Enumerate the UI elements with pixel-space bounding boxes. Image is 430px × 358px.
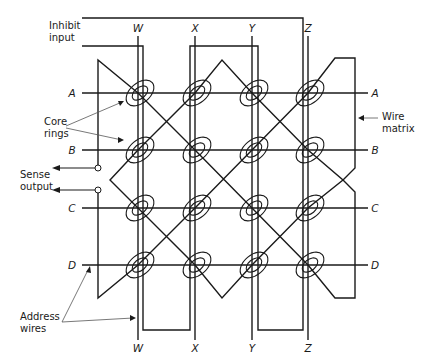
column-labels-bottom: W X Y Z (133, 342, 313, 354)
col-label-w-bottom: W (133, 342, 144, 354)
col-label-x-bottom: X (190, 342, 199, 354)
svg-text:Sense: Sense (20, 169, 50, 180)
row-labels-right: A B C D (370, 87, 379, 271)
sense-terminal-bottom (95, 187, 101, 193)
row-label-c-left: C (68, 202, 76, 214)
sense-terminals (52, 165, 101, 193)
sense-terminal-top (95, 165, 101, 171)
svg-text:wires: wires (20, 323, 46, 334)
col-label-w-top: W (133, 22, 144, 34)
svg-text:output: output (20, 181, 53, 192)
svg-text:Wire: Wire (382, 111, 405, 122)
row-labels-left: A B C D (67, 87, 76, 271)
row-label-d-left: D (68, 259, 76, 271)
annotation-inhibit-input: Inhibit input (49, 20, 81, 43)
row-label-b-left: B (68, 144, 75, 156)
core-memory-diagram: W X Y Z W X Y Z A B C D A B C D Inhibit … (0, 0, 430, 358)
svg-text:Address: Address (20, 311, 60, 322)
annotation-address-wires: Address wires (20, 266, 136, 334)
row-label-c-right: C (371, 202, 379, 214)
col-label-z-top: Z (303, 22, 312, 34)
svg-text:Core: Core (44, 116, 67, 127)
row-label-b-right: B (371, 144, 378, 156)
col-label-y-bottom: Y (249, 342, 257, 354)
column-address-wires (138, 36, 308, 340)
row-address-wires (82, 93, 368, 265)
row-label-a-right: A (370, 87, 378, 99)
col-label-y-top: Y (249, 22, 257, 34)
annotation-sense-output: Sense output (20, 169, 53, 192)
svg-text:matrix: matrix (382, 123, 415, 134)
column-labels-top: W X Y Z (133, 22, 313, 34)
col-label-z-bottom: Z (303, 342, 312, 354)
annotation-wire-matrix: Wire matrix (358, 111, 415, 134)
svg-text:Inhibit: Inhibit (49, 20, 81, 31)
col-label-x-top: X (190, 22, 199, 34)
row-label-a-left: A (67, 87, 75, 99)
svg-text:input: input (49, 32, 75, 43)
core-rings (121, 75, 328, 283)
annotation-core-rings: Core rings (44, 101, 124, 143)
svg-text:rings: rings (44, 128, 69, 139)
row-label-d-right: D (371, 259, 379, 271)
